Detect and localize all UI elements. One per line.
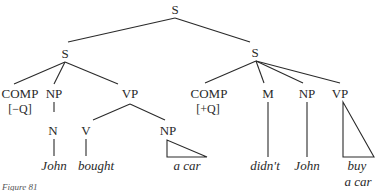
triangle-np-a-car [167, 140, 207, 157]
node-right-np: NP [299, 86, 316, 101]
word-a-car-left: a car [173, 158, 201, 173]
word-didnt: didn't [250, 158, 280, 173]
triangle-vp-buy-a-car [343, 102, 374, 157]
word-john-right: John [294, 158, 319, 173]
node-left-comp-feature: [−Q] [8, 102, 31, 116]
node-left-object-np: NP [160, 123, 177, 138]
node-left-n: N [48, 123, 58, 138]
node-left-comp: COMP [2, 86, 39, 101]
node-left-np: NP [46, 86, 63, 101]
node-right-comp: COMP [191, 86, 228, 101]
node-left-vp: VP [122, 86, 139, 101]
tree-edges [14, 18, 340, 157]
word-john-left: John [41, 158, 66, 173]
word-a-car-right: a car [344, 174, 372, 189]
node-right-comp-feature: [+Q] [196, 102, 219, 116]
word-bought: bought [78, 158, 115, 173]
syntax-tree-diagram: S S S COMP [−Q] NP N VP V NP COMP [+Q] M… [0, 0, 375, 191]
node-right-m: M [262, 86, 274, 101]
figure-caption: Figure 81 [1, 182, 37, 191]
node-left-v: V [81, 123, 91, 138]
node-right-s: S [251, 45, 258, 60]
node-root-s: S [171, 2, 178, 17]
word-buy: buy [348, 158, 367, 173]
node-right-vp: VP [332, 86, 349, 101]
node-left-s: S [61, 46, 68, 61]
